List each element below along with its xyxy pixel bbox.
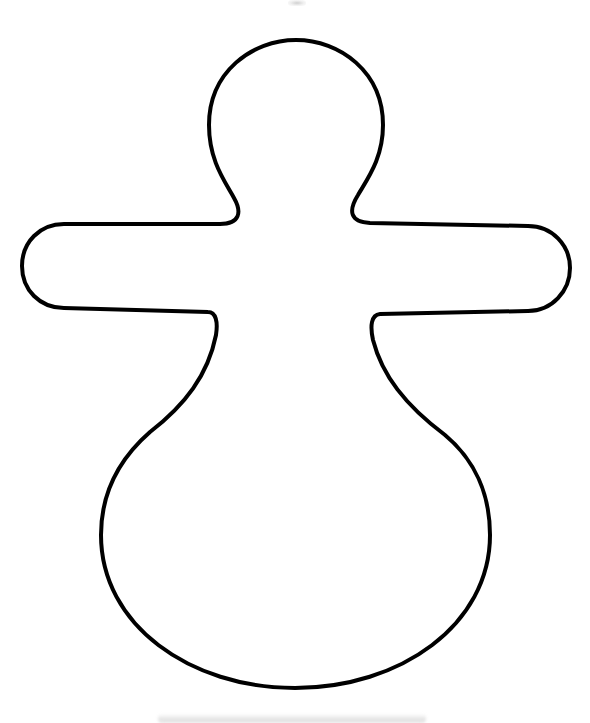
doll-outline-shape — [22, 40, 570, 688]
top-smudge-mark — [288, 0, 306, 6]
figure-canvas — [0, 0, 590, 723]
bottom-shadow-bar — [158, 714, 426, 723]
doll-outline-svg — [0, 0, 590, 723]
